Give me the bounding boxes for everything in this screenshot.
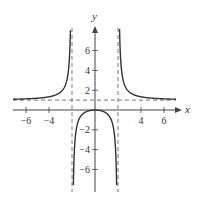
- x-tick-label: 4: [139, 115, 144, 126]
- function-graph: −6−446642−2−4−6 x y: [0, 0, 202, 203]
- x-tick-label: −4: [44, 115, 55, 126]
- y-tick-label: −2: [79, 124, 90, 135]
- x-axis-label: x: [184, 103, 190, 115]
- y-tick-label: 2: [85, 85, 90, 96]
- y-tick-label: 6: [85, 45, 90, 56]
- x-axis-arrow-icon: [175, 107, 182, 113]
- right-branch-curve: [120, 29, 176, 99]
- y-tick-label: −4: [79, 144, 90, 155]
- x-tick-label: 6: [162, 115, 167, 126]
- left-branch-curve: [13, 30, 70, 99]
- y-axis-label: y: [91, 10, 97, 22]
- y-axis-arrow-icon: [92, 26, 98, 33]
- y-tick-label: 4: [85, 65, 90, 76]
- y-tick-label: −6: [79, 164, 90, 175]
- x-tick-label: −6: [21, 115, 32, 126]
